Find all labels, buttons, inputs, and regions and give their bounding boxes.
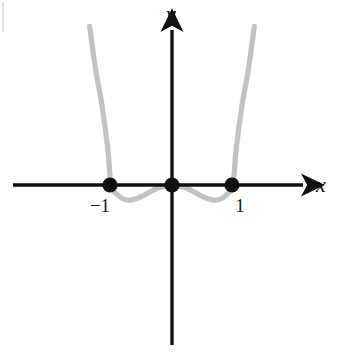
x-tick-label-positive-one: 1 <box>235 195 245 216</box>
root-marker-origin <box>164 177 179 192</box>
graph-figure: −1 1 x y <box>0 0 345 353</box>
coordinate-plane: −1 1 x y <box>0 0 345 353</box>
x-axis-label: x <box>315 172 326 197</box>
y-axis-label: y <box>164 1 176 26</box>
root-marker-negative-one <box>102 177 117 192</box>
x-tick-label-negative-one: −1 <box>90 195 110 216</box>
root-marker-positive-one <box>224 177 239 192</box>
